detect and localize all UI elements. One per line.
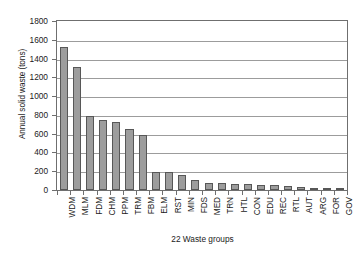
- bar-series: [57, 21, 347, 190]
- y-tick-label: 1400: [14, 55, 48, 63]
- bar: [297, 187, 305, 190]
- x-tick-mark: [334, 191, 335, 195]
- x-tick-label: FDM: [94, 197, 104, 215]
- bar: [99, 120, 107, 190]
- x-tick-mark: [83, 191, 84, 195]
- bar: [336, 188, 344, 191]
- x-tick-mark: [228, 191, 229, 195]
- bar: [244, 184, 252, 190]
- bar: [125, 129, 133, 190]
- bar: [139, 135, 147, 190]
- bar: [60, 47, 68, 190]
- x-tick-mark: [321, 191, 322, 195]
- x-tick-mark: [202, 191, 203, 195]
- y-tick-label: 800: [14, 111, 48, 119]
- bar: [73, 67, 81, 190]
- y-tick-label: 1000: [14, 92, 48, 100]
- bar: [165, 172, 173, 190]
- x-tick-label: MED: [212, 197, 222, 215]
- x-tick-mark: [294, 191, 295, 195]
- x-tick-label: TRN: [225, 197, 235, 214]
- x-tick-mark: [57, 191, 58, 195]
- x-tick-mark: [255, 191, 256, 195]
- bar: [231, 184, 239, 190]
- x-tick-mark: [149, 191, 150, 195]
- x-tick-label: ARG: [318, 197, 328, 215]
- x-tick-label: REC: [278, 197, 288, 214]
- y-tick-label: 200: [14, 167, 48, 175]
- x-tick-label: TRM: [133, 197, 143, 215]
- x-tick-mark: [162, 191, 163, 195]
- x-tick-mark: [176, 191, 177, 195]
- bar: [152, 172, 160, 190]
- x-tick-label: GOV: [344, 197, 354, 215]
- x-tick-label: AUT: [304, 197, 314, 213]
- y-tick-label: 1800: [14, 17, 48, 25]
- x-tick-mark: [136, 191, 137, 195]
- bar: [205, 183, 213, 190]
- x-tick-label: CHM: [107, 197, 117, 216]
- x-tick-label: PPM: [120, 197, 130, 215]
- bar: [257, 185, 265, 190]
- x-tick-mark: [189, 191, 190, 195]
- y-tick-label: 0: [14, 186, 48, 194]
- x-tick-label: FOR: [331, 197, 341, 214]
- x-tick-label: CON: [252, 197, 262, 215]
- x-tick-label: FDS: [199, 197, 209, 213]
- x-tick-label: RTL: [291, 197, 301, 212]
- bar: [270, 185, 278, 190]
- bar: [178, 175, 186, 190]
- x-tick-mark: [123, 191, 124, 195]
- x-axis-title-text: 22 Waste groups: [171, 234, 233, 244]
- x-tick-mark: [215, 191, 216, 195]
- x-tick-mark: [307, 191, 308, 195]
- x-tick-mark: [110, 191, 111, 195]
- bar: [86, 116, 94, 190]
- x-tick-label: HTL: [239, 197, 249, 212]
- x-axis-title: 22 Waste groups: [0, 234, 359, 244]
- bar: [323, 188, 331, 191]
- bar: [218, 183, 226, 190]
- x-tick-mark: [347, 191, 348, 195]
- x-tick-label: WDM: [67, 197, 77, 217]
- x-tick-label: RST: [173, 197, 183, 213]
- bar: [112, 122, 120, 190]
- x-tick-mark: [281, 191, 282, 195]
- bar: [191, 180, 199, 190]
- x-tick-mark: [268, 191, 269, 195]
- x-tick-mark: [242, 191, 243, 195]
- y-tick-label: 400: [14, 148, 48, 156]
- plot-area: [56, 20, 348, 191]
- bar: [284, 186, 292, 190]
- x-tick-label: ELM: [159, 197, 169, 214]
- y-tick-label: 1200: [14, 73, 48, 81]
- x-tick-label: FBM: [146, 197, 156, 214]
- bar: [310, 188, 318, 191]
- x-tick-label: EDU: [265, 197, 275, 214]
- x-tick-mark: [70, 191, 71, 195]
- x-tick-mark: [97, 191, 98, 195]
- x-tick-label: MLM: [80, 197, 90, 215]
- y-tick-label: 600: [14, 130, 48, 138]
- y-tick-label: 1600: [14, 36, 48, 44]
- x-tick-label: MIN: [186, 197, 196, 212]
- bar-chart: Annual solid waste (tons) 02004006008001…: [0, 0, 359, 254]
